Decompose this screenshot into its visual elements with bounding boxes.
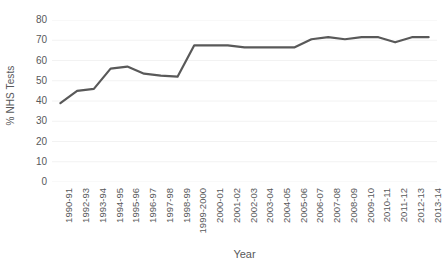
y-tick-label: 50: [36, 75, 47, 87]
x-tick-label: 2012-13: [416, 188, 426, 223]
line-chart: % NHS Tests 80706050403020100 1990-91199…: [0, 0, 445, 274]
y-tick-label: 40: [36, 95, 47, 107]
x-axis-tick-labels: 1990-911992-931993-941994-951995-961996-…: [52, 184, 437, 246]
x-tick-label: 2006-07: [315, 188, 325, 223]
y-axis-title-label: % NHS Tests: [6, 65, 17, 125]
x-tick-label: 2002-03: [249, 188, 259, 223]
plot-area: [52, 20, 437, 182]
y-tick-label: 10: [36, 156, 47, 168]
x-tick-label: 2005-06: [299, 188, 309, 223]
data-series-line: [60, 37, 428, 103]
y-tick-label: 0: [41, 176, 47, 188]
y-tick-label: 60: [36, 55, 47, 67]
x-tick-label: 1992-93: [81, 188, 91, 223]
x-tick-label: 1998-99: [182, 188, 192, 223]
gridlines: [52, 20, 437, 182]
x-tick-label: 2003-04: [265, 188, 275, 223]
y-axis-title: % NHS Tests: [0, 0, 22, 190]
x-tick-label: 2007-08: [332, 188, 342, 223]
x-tick-label: 2009-10: [366, 188, 376, 223]
x-axis-title-label: Year: [233, 248, 255, 260]
x-tick-label: 1995-96: [131, 188, 141, 223]
plot-svg: [52, 20, 437, 182]
x-tick-label: 1990-91: [64, 188, 74, 223]
x-tick-label: 1999-2000: [198, 188, 208, 233]
y-tick-label: 20: [36, 136, 47, 148]
y-tick-label: 70: [36, 34, 47, 46]
x-tick-label: 1996-97: [148, 188, 158, 223]
x-tick-label: 1997-98: [165, 188, 175, 223]
x-tick-label: 1993-94: [98, 188, 108, 223]
x-tick-label: 2001-02: [232, 188, 242, 223]
x-tick-label: 2011-12: [399, 188, 409, 222]
x-axis-title: Year: [52, 248, 437, 260]
x-tick-label: 2004-05: [282, 188, 292, 223]
x-tick-label: 2013-14: [433, 188, 443, 223]
x-tick-label: 2010-11: [382, 188, 392, 222]
x-tick-label: 2008-09: [349, 188, 359, 223]
x-tick-label: 1994-95: [115, 188, 125, 223]
y-tick-label: 30: [36, 115, 47, 127]
y-tick-label: 80: [36, 14, 47, 26]
y-axis-tick-labels: 80706050403020100: [22, 14, 50, 188]
x-tick-label: 2000-01: [215, 188, 225, 223]
